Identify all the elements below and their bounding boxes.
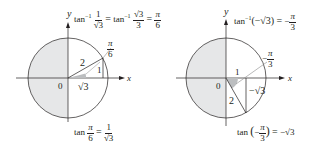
right-angle-label: −π3 — [262, 49, 274, 69]
left-y-arrow-icon — [66, 22, 70, 28]
right-x-arrow-icon — [279, 76, 285, 80]
left-diagram — [16, 22, 125, 122]
left-opposite-label: 1 — [97, 66, 102, 75]
left-y-label: y — [67, 9, 71, 19]
right-adjacent-label: 1 — [235, 68, 240, 77]
right-y-label: y — [224, 7, 228, 17]
left-origin-label: 0 — [58, 82, 63, 91]
left-hypotenuse-label: 2 — [80, 58, 85, 68]
left-footer-equation: tan π6 = 1√3 — [74, 123, 113, 143]
left-header-mid-fn: tan — [113, 14, 124, 24]
right-x-label: x — [288, 74, 292, 83]
left-header-sup: −1 — [85, 13, 91, 19]
left-header-equation: tan−1 1√3 = tan−1 √33 = π6 — [74, 10, 161, 30]
left-header-fn: tan — [74, 14, 85, 24]
left-header-mid-frac: √33 — [133, 10, 144, 30]
right-footer-equation: tan (−π3) = −√3 — [237, 123, 295, 143]
left-header-lhs-frac: 1√3 — [94, 10, 103, 30]
right-angle-wedge — [226, 78, 238, 88]
left-angle-label: π6 — [107, 39, 114, 59]
left-x-arrow-icon — [119, 76, 125, 80]
left-adjacent-label: √3 — [78, 82, 89, 92]
left-x-label: x — [127, 74, 131, 83]
left-angle-wedge — [68, 73, 86, 78]
right-origin-label: 0 — [216, 82, 221, 91]
right-hypotenuse-label: 2 — [229, 96, 234, 106]
right-header-equation: tan−1(−√3) = −π3 — [234, 12, 296, 32]
right-diagram — [176, 19, 285, 126]
right-opposite-label: −√3 — [249, 86, 265, 96]
left-header-rhs-frac: π6 — [154, 10, 161, 30]
right-y-arrow-icon — [224, 19, 228, 25]
